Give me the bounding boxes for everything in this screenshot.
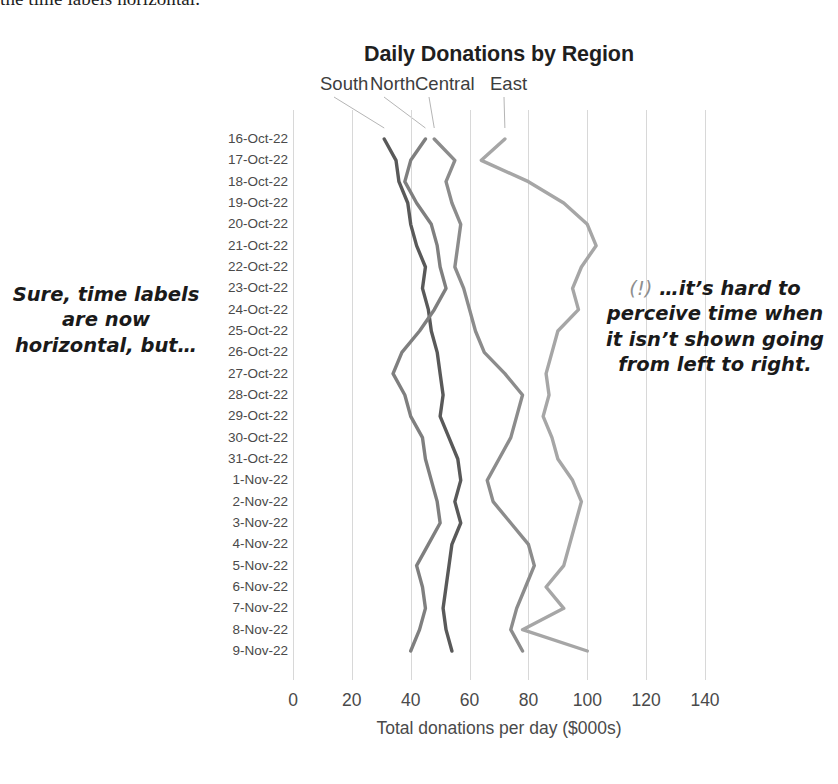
plot-area bbox=[293, 110, 705, 680]
category-label: 1-Nov-22 bbox=[208, 473, 288, 487]
x-tick-label: 100 bbox=[573, 690, 602, 711]
x-tick-label: 140 bbox=[690, 690, 719, 711]
category-label: 27-Oct-22 bbox=[208, 367, 288, 381]
category-label: 31-Oct-22 bbox=[208, 452, 288, 466]
category-label: 17-Oct-22 bbox=[208, 153, 288, 167]
x-tick-label: 0 bbox=[288, 690, 298, 711]
category-label: 25-Oct-22 bbox=[208, 324, 288, 338]
category-label: 19-Oct-22 bbox=[208, 196, 288, 210]
category-label: 9-Nov-22 bbox=[208, 644, 288, 658]
series-line-north bbox=[393, 139, 446, 651]
warning-marker-icon: (!) bbox=[629, 277, 652, 300]
x-tick-label: 60 bbox=[460, 690, 479, 711]
x-tick-label: 20 bbox=[342, 690, 361, 711]
category-label: 24-Oct-22 bbox=[208, 303, 288, 317]
category-label: 26-Oct-22 bbox=[208, 345, 288, 359]
x-tick-label: 80 bbox=[519, 690, 538, 711]
series-label-north: North bbox=[370, 73, 415, 95]
series-label-central: Central bbox=[415, 73, 475, 95]
annotation-left: Sure, time labels are now horizontal, bu… bbox=[8, 282, 204, 358]
category-label: 21-Oct-22 bbox=[208, 239, 288, 253]
category-label: 28-Oct-22 bbox=[208, 388, 288, 402]
category-label: 6-Nov-22 bbox=[208, 580, 288, 594]
series-label-east: East bbox=[490, 73, 527, 95]
category-label: 20-Oct-22 bbox=[208, 217, 288, 231]
category-label: 30-Oct-22 bbox=[208, 431, 288, 445]
category-label: 29-Oct-22 bbox=[208, 409, 288, 423]
x-tick-label: 120 bbox=[632, 690, 661, 711]
category-label: 4-Nov-22 bbox=[208, 537, 288, 551]
x-axis-title: Total donations per day ($000s) bbox=[293, 718, 705, 739]
x-axis-tick-labels: 020406080100120140 bbox=[0, 690, 838, 714]
category-label: 8-Nov-22 bbox=[208, 623, 288, 637]
category-label: 7-Nov-22 bbox=[208, 601, 288, 615]
series-lines bbox=[293, 110, 705, 680]
category-label: 18-Oct-22 bbox=[208, 175, 288, 189]
x-tick-label: 40 bbox=[401, 690, 420, 711]
category-label: 5-Nov-22 bbox=[208, 559, 288, 573]
chart-title: Daily Donations by Region bbox=[293, 42, 705, 67]
category-label: 23-Oct-22 bbox=[208, 281, 288, 295]
series-line-east bbox=[481, 139, 596, 651]
category-label: 16-Oct-22 bbox=[208, 132, 288, 146]
category-label: 3-Nov-22 bbox=[208, 516, 288, 530]
series-label-group: SouthNorthCentralEast bbox=[293, 73, 705, 97]
category-axis-labels: 16-Oct-2217-Oct-2218-Oct-2219-Oct-2220-O… bbox=[208, 110, 288, 680]
top-cut-off-text: the time labels horizontal. bbox=[0, 0, 420, 10]
category-label: 2-Nov-22 bbox=[208, 495, 288, 509]
annotation-right: (!) …it’s hard to perceive time when it … bbox=[596, 276, 834, 377]
series-label-south: South bbox=[320, 73, 368, 95]
series-line-south bbox=[384, 139, 461, 651]
category-label: 22-Oct-22 bbox=[208, 260, 288, 274]
gridline bbox=[705, 110, 706, 680]
